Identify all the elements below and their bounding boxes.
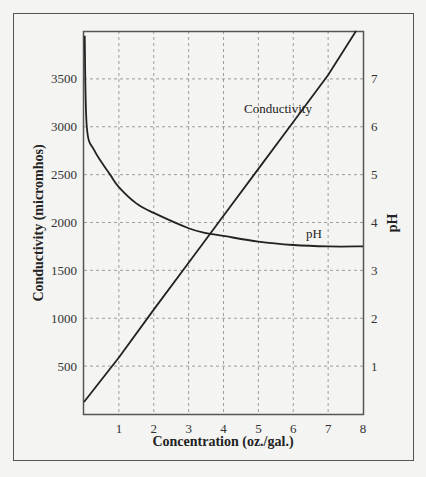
y2-tick-label: 2 <box>371 311 378 326</box>
y2-tick-label: 7 <box>371 71 378 86</box>
chart: 12345678 500100015002000250030003500 123… <box>0 0 426 477</box>
y-tick-label: 1500 <box>51 263 77 278</box>
y2-tick-label: 3 <box>371 263 378 278</box>
x-tick-label: 8 <box>360 421 367 436</box>
conductivity-line <box>84 31 356 402</box>
y-tick-label: 1000 <box>51 311 77 326</box>
y2-tick-label: 4 <box>371 215 378 230</box>
y-axis-label: Conductivity (micromhos) <box>31 144 47 302</box>
y-axis-ticks: 500100015002000250030003500 <box>51 71 77 373</box>
y-tick-label: 3500 <box>51 71 77 86</box>
x-tick-label: 7 <box>325 421 332 436</box>
y2-axis-label: pH <box>385 214 400 233</box>
x-tick-label: 1 <box>116 421 123 436</box>
conductivity-series-label: Conductivity <box>244 101 312 116</box>
y2-tick-label: 5 <box>371 167 378 182</box>
ph-series-label: pH <box>306 226 322 241</box>
y-tick-label: 2500 <box>51 167 77 182</box>
y2-axis-ticks: 1234567 <box>371 71 378 373</box>
y-tick-label: 500 <box>58 359 78 374</box>
y-tick-label: 3000 <box>51 119 77 134</box>
y-tick-label: 2000 <box>51 215 77 230</box>
x-axis-label: Concentration (oz./gal.) <box>152 434 293 450</box>
grid <box>84 31 363 414</box>
y2-tick-label: 6 <box>371 119 378 134</box>
y2-tick-label: 1 <box>371 359 378 374</box>
